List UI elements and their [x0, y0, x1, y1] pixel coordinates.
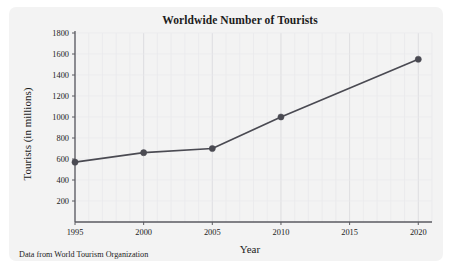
- y-tick-label: 1200: [52, 92, 69, 101]
- x-tick-label: 2015: [341, 228, 358, 237]
- data-point-marker[interactable]: [278, 114, 284, 120]
- data-series-line: [75, 59, 418, 162]
- x-tick-label: 2020: [410, 228, 427, 237]
- x-tick-label: 2000: [135, 228, 152, 237]
- y-tick-label: 1600: [52, 50, 69, 59]
- data-point-marker[interactable]: [209, 145, 215, 151]
- x-tick-label: 2010: [273, 228, 290, 237]
- x-tick-label: 1995: [67, 228, 84, 237]
- data-point-marker[interactable]: [415, 56, 421, 62]
- data-point-marker[interactable]: [72, 159, 78, 165]
- y-tick-label: 200: [56, 197, 69, 206]
- source-note: Data from World Tourism Organization: [19, 250, 148, 259]
- y-tick-label: 600: [56, 155, 69, 164]
- y-tick-label: 400: [56, 176, 69, 185]
- data-point-marker[interactable]: [141, 150, 147, 156]
- x-tick-label: 2005: [204, 228, 221, 237]
- y-tick-label: 800: [56, 134, 69, 143]
- y-tick-label: 1800: [52, 29, 69, 38]
- figure-canvas: Worldwide Number of Tourists 20040060080…: [0, 0, 452, 274]
- line-chart-svg: 2004006008001000120014001600180019952000…: [0, 0, 452, 274]
- y-tick-label: 1000: [52, 113, 69, 122]
- y-axis-label: Tourists (in millions): [21, 74, 33, 194]
- y-tick-label: 1400: [52, 71, 69, 80]
- plot-area: 2004006008001000120014001600180019952000…: [0, 0, 452, 274]
